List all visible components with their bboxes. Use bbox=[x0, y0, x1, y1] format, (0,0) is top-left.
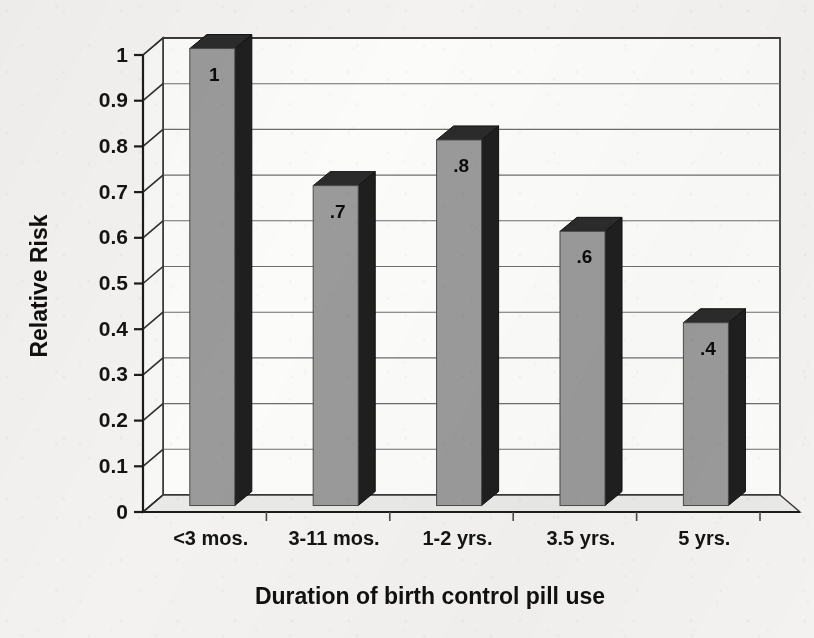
bar-value-label: .8 bbox=[453, 155, 469, 176]
y-axis-tickmarks bbox=[134, 55, 143, 512]
bar-column: .8 bbox=[437, 126, 499, 506]
bar-column: .4 bbox=[683, 309, 745, 506]
bar-side-face bbox=[728, 309, 745, 506]
bar-side-face bbox=[605, 217, 622, 505]
y-axis-tick-label: 0.5 bbox=[99, 271, 129, 294]
y-axis-tick-label: 0.2 bbox=[99, 408, 128, 431]
bar-front-face bbox=[190, 49, 235, 506]
bar-column: 1 bbox=[190, 35, 252, 506]
x-axis bbox=[143, 512, 800, 521]
x-axis-tick-label: 5 yrs. bbox=[678, 527, 730, 549]
y-axis-tick-label: 0.7 bbox=[99, 180, 128, 203]
y-axis-tick-label: 0.4 bbox=[99, 317, 129, 340]
y-axis-tick-label: 0.9 bbox=[99, 88, 128, 111]
bar-side-face bbox=[358, 172, 375, 506]
bar-value-label: .4 bbox=[700, 338, 716, 359]
bar-side-face bbox=[235, 35, 252, 506]
x-axis-title: Duration of birth control pill use bbox=[255, 583, 605, 609]
bar-column: .6 bbox=[560, 217, 622, 505]
y-axis-tick-labels: 00.10.20.30.40.50.60.70.80.91 bbox=[99, 43, 129, 523]
bar-front-face bbox=[560, 231, 605, 505]
x-axis-tick-labels: <3 mos.3-11 mos.1-2 yrs.3.5 yrs.5 yrs. bbox=[173, 527, 730, 549]
x-axis-tick-label: 3-11 mos. bbox=[289, 527, 380, 549]
chart-canvas: 1.7.8.6.4 00.10.20.30.40.50.60.70.80.91 … bbox=[0, 0, 814, 638]
bar-value-label: 1 bbox=[209, 64, 220, 85]
bar-column: .7 bbox=[313, 172, 375, 506]
y-axis-tick-label: 0.1 bbox=[99, 454, 129, 477]
y-axis-title: Relative Risk bbox=[26, 214, 52, 357]
bar-value-label: .6 bbox=[577, 246, 593, 267]
x-axis-tickmarks bbox=[266, 512, 760, 521]
y-axis-tick-label: 0.3 bbox=[99, 362, 128, 385]
bar-value-label: .7 bbox=[330, 201, 346, 222]
y-axis-tick-label: 1 bbox=[116, 43, 128, 66]
figure-3d-bar-chart: 1.7.8.6.4 00.10.20.30.40.50.60.70.80.91 … bbox=[0, 0, 814, 638]
y-axis-tick-label: 0.6 bbox=[99, 225, 128, 248]
bar-front-face bbox=[313, 186, 358, 506]
bar-front-face bbox=[437, 140, 482, 506]
y-axis bbox=[134, 55, 143, 512]
x-axis-tick-label: 3.5 yrs. bbox=[546, 527, 615, 549]
y-axis-tick-label: 0 bbox=[116, 500, 128, 523]
x-axis-tick-label: <3 mos. bbox=[173, 527, 248, 549]
x-axis-tick-label: 1-2 yrs. bbox=[422, 527, 492, 549]
y-axis-tick-label: 0.8 bbox=[99, 134, 129, 157]
bar-side-face bbox=[482, 126, 499, 506]
